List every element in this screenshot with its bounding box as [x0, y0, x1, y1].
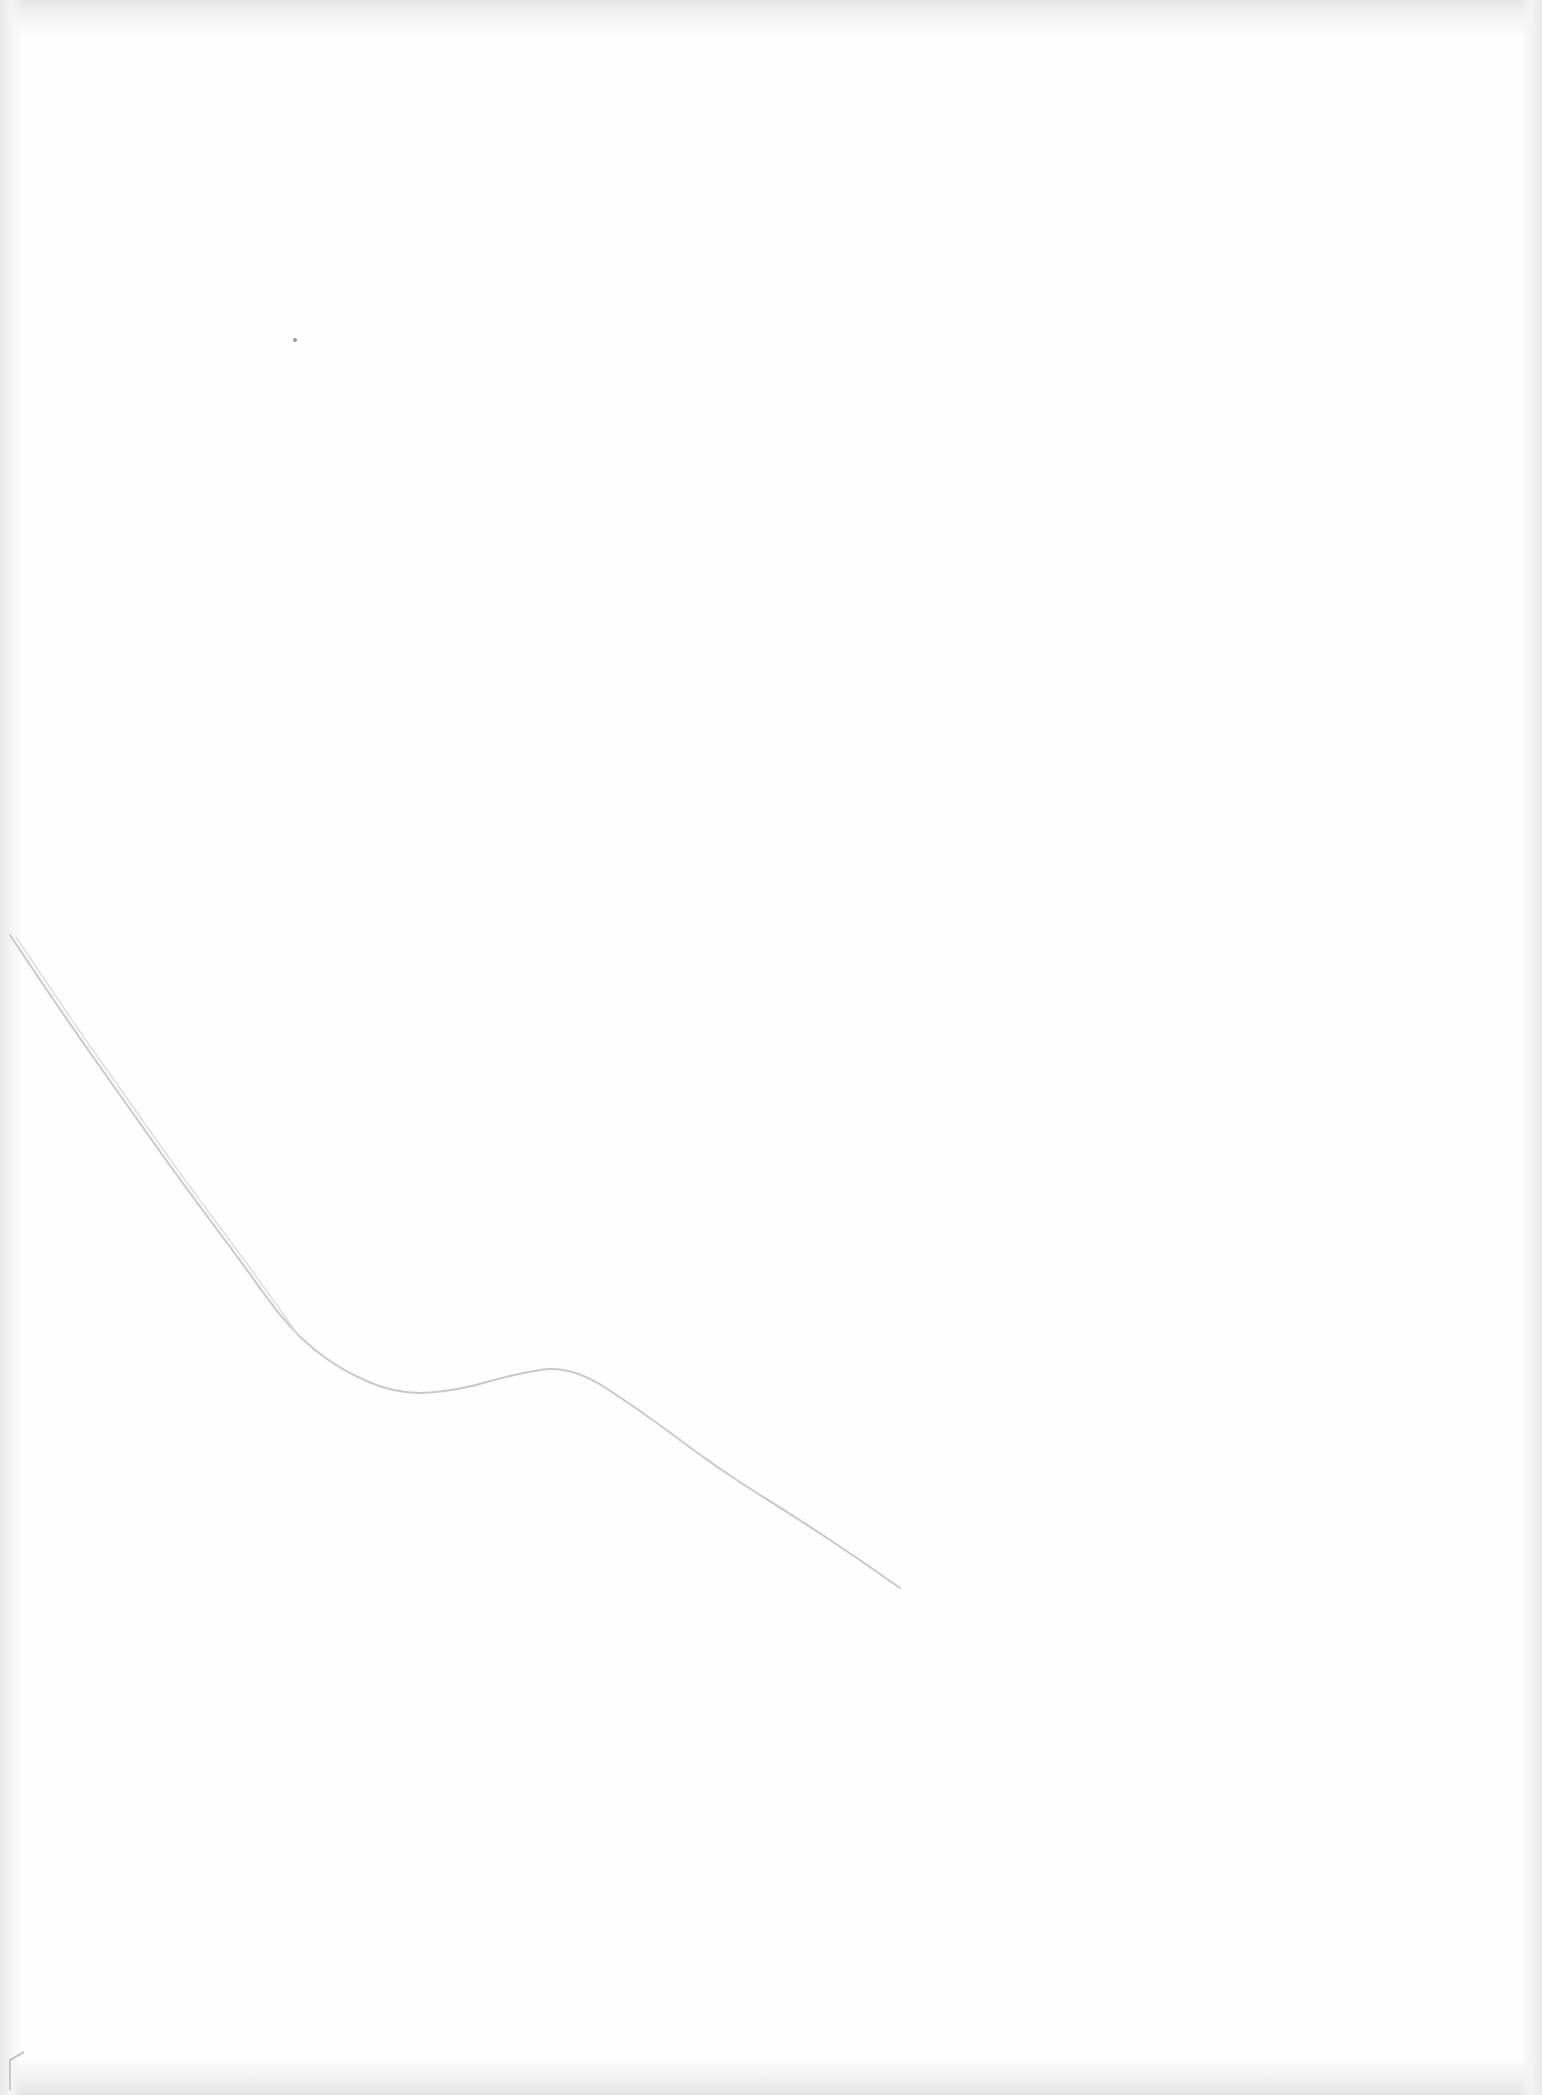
pencil-sketch [0, 0, 1542, 2095]
corner-fold-mark [10, 2052, 24, 2090]
pencil-curve-line-echo [16, 937, 296, 1332]
graphite-speck [293, 338, 297, 342]
scanned-blank-page [0, 0, 1542, 2095]
pencil-curve-line [10, 935, 900, 1588]
